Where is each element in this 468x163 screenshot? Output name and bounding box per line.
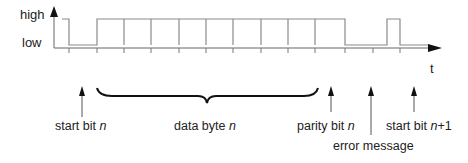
- label-data-byte: data byte n: [174, 119, 236, 133]
- start-bit-arrow-icon: [79, 86, 85, 96]
- start-bit-next-arrow-icon: [411, 86, 417, 96]
- x-label-t: t: [430, 61, 434, 76]
- x-axis-arrow-icon: [428, 44, 442, 52]
- label-error-message: error message: [333, 139, 414, 153]
- indicator-arrows: [79, 86, 417, 135]
- data-byte-brace: [97, 88, 318, 103]
- y-label-high: high: [20, 7, 45, 22]
- label-start-bit: start bit n: [55, 119, 106, 133]
- label-start-bit-next: start bit n+1: [386, 119, 452, 133]
- signal-waveform: [62, 19, 428, 45]
- y-axis-arrow-icon: [50, 6, 58, 17]
- error-message-arrow-icon: [368, 86, 374, 96]
- y-axis: [50, 6, 58, 48]
- parity-bit-arrow-icon: [328, 86, 334, 96]
- label-parity-bit: parity bit n: [297, 119, 355, 133]
- y-label-low: low: [22, 35, 42, 50]
